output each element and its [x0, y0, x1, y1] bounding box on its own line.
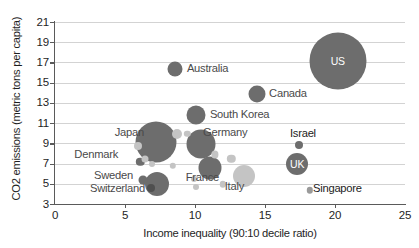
- gridline: [55, 22, 405, 23]
- y-tick-mark: [50, 103, 55, 104]
- bubble-uk[interactable]: UK: [286, 153, 308, 175]
- y-tick-mark: [50, 83, 55, 84]
- x-tick-mark: [335, 204, 336, 208]
- gridline: [55, 103, 405, 104]
- y-tick-mark: [50, 143, 55, 144]
- bubble-chart: 3579111315171921 0510152025 CO2 emission…: [0, 0, 419, 248]
- y-axis-title: CO2 emissions (metric tons per capita): [11, 9, 22, 209]
- bubble-inner-label: UK: [290, 158, 304, 169]
- point-label-south-korea: South Korea: [210, 109, 269, 120]
- y-tick-mark: [50, 184, 55, 185]
- bubble-unlabeled-10[interactable]: [193, 184, 199, 190]
- gridline: [55, 143, 405, 144]
- y-tick-mark: [50, 164, 55, 165]
- x-tick-label: 20: [329, 210, 341, 222]
- point-label-germany: Germany: [203, 127, 247, 138]
- x-tick-label: 0: [52, 210, 58, 222]
- x-axis-line: [54, 204, 406, 205]
- y-tick-mark: [50, 62, 55, 63]
- bubble-unlabeled-4[interactable]: [142, 155, 149, 162]
- x-tick-mark: [195, 204, 196, 208]
- y-tick-mark: [50, 204, 55, 205]
- y-axis-tick-labels: 3579111315171921: [0, 0, 49, 248]
- bubble-inner-label: US: [331, 56, 345, 67]
- x-tick-label: 5: [122, 210, 128, 222]
- point-label-israel: Israel: [290, 128, 316, 139]
- x-tick-label: 15: [259, 210, 271, 222]
- point-label-australia: Australia: [187, 63, 228, 74]
- bubble-south-korea[interactable]: [187, 106, 206, 125]
- bubble-us[interactable]: US: [309, 33, 366, 90]
- bubble-switzerland-marker[interactable]: [147, 184, 155, 192]
- bubble-unlabeled-5[interactable]: [149, 161, 155, 167]
- gridline: [55, 123, 405, 124]
- x-axis-title: Income inequality (90:10 decile ratio): [55, 228, 405, 239]
- bubble-unlabeled-1[interactable]: [172, 129, 182, 139]
- bubble-israel[interactable]: [295, 141, 303, 149]
- point-label-sweden: Sweden: [94, 170, 133, 181]
- y-tick-mark: [50, 42, 55, 43]
- x-tick-mark: [265, 204, 266, 208]
- point-label-denmark: Denmark: [74, 149, 118, 160]
- point-label-switzerland: Switzerland: [90, 183, 145, 194]
- bubble-australia[interactable]: [168, 61, 183, 76]
- point-label-singapore: Singapore: [313, 183, 362, 194]
- x-tick-label: 25: [399, 210, 411, 222]
- point-label-canada: Canada: [269, 88, 307, 99]
- bubble-canada[interactable]: [248, 85, 265, 102]
- y-tick-mark: [50, 123, 55, 124]
- y-axis-line: [54, 21, 55, 205]
- point-label-italy: Italy: [225, 181, 244, 192]
- point-label-france: France: [186, 172, 219, 183]
- x-tick-mark: [125, 204, 126, 208]
- point-label-japan: Japan: [115, 127, 144, 138]
- bubble-unlabeled-3[interactable]: [134, 142, 142, 150]
- x-tick-label: 10: [189, 210, 201, 222]
- y-tick-mark: [50, 22, 55, 23]
- gridline: [55, 164, 405, 165]
